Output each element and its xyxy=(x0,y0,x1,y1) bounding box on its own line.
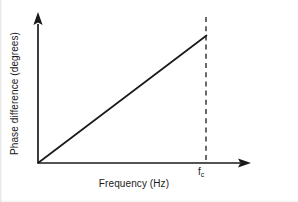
y-axis-label: Phase difference (degrees) xyxy=(9,14,20,174)
y-axis-arrowhead xyxy=(33,12,42,25)
cutoff-frequency-subscript: c xyxy=(201,171,205,178)
plot-canvas xyxy=(0,0,298,202)
cutoff-frequency-label: fc xyxy=(198,166,204,178)
phase-frequency-figure: Phase difference (degrees) Frequency (Hz… xyxy=(0,0,298,202)
phase-difference-line xyxy=(38,36,207,164)
x-axis-label: Frequency (Hz) xyxy=(74,178,194,189)
